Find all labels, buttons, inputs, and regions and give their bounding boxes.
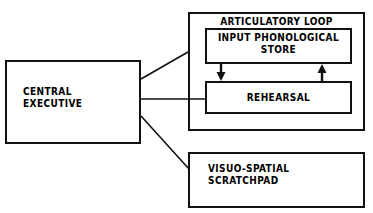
- diagram-canvas: CENTRAL EXECUTIVE ARTICULATORY LOOP INPU…: [0, 0, 373, 213]
- articulatory-loop-label: ARTICULATORY LOOP: [188, 16, 365, 28]
- central-executive-to-visuo-spatial-scratchpad-line: [141, 116, 189, 169]
- central-executive-to-articulatory-loop-line: [141, 52, 188, 79]
- rehearsal-label: REHEARSAL: [205, 92, 352, 104]
- input-phonological-store-label: INPUT PHONOLOGICAL STORE: [205, 32, 352, 56]
- central-executive-label: CENTRAL EXECUTIVE: [23, 86, 82, 110]
- visuo-spatial-scratchpad-label: VISUO-SPATIAL SCRATCHPAD: [208, 163, 289, 187]
